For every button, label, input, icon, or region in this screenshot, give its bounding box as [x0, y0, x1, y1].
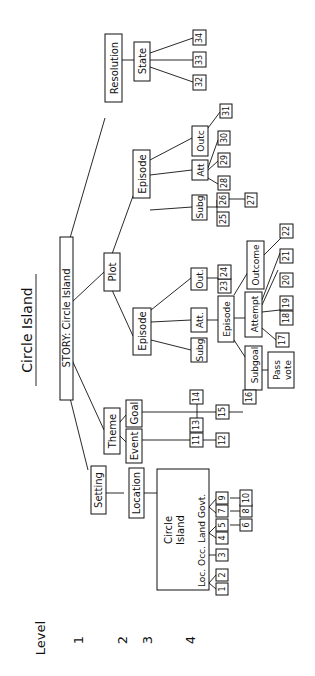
- node-circle-island: Circle Island Loc. Occ. Land Govt.: [157, 469, 209, 590]
- leaf-33: 33: [193, 52, 206, 67]
- svg-text:7: 7: [218, 508, 227, 513]
- leaf-28: 28: [218, 176, 230, 190]
- node-episode-a: Episode: [133, 308, 151, 355]
- leaf-30: 30: [218, 131, 230, 145]
- leaf-19: 19: [280, 296, 293, 310]
- leaf-17: 17: [276, 333, 289, 347]
- svg-text:2: 2: [218, 572, 227, 577]
- node-subg-b-label: Subg: [195, 196, 205, 219]
- node-resolution: Resolution: [105, 34, 122, 102]
- node-location-label: Location: [131, 472, 142, 514]
- node-subgoal-label: Subgoal: [250, 347, 260, 383]
- node-outcome: Outcome: [247, 241, 264, 289]
- node-attempt-label: Attempt: [250, 295, 260, 332]
- node-setting: Setting: [91, 466, 106, 514]
- leaf-3: 3: [216, 549, 228, 561]
- node-attempt: Attempt: [245, 292, 262, 337]
- node-plot: Plot: [104, 253, 120, 291]
- node-att-a-label: Att.: [195, 312, 205, 328]
- node-event: Event: [126, 429, 142, 463]
- svg-text:4: 4: [218, 535, 227, 540]
- svg-text:25: 25: [219, 214, 228, 224]
- node-subgoal: Subgoal: [245, 346, 262, 390]
- node-theme-label: Theme: [107, 414, 118, 450]
- svg-text:32: 32: [195, 77, 204, 87]
- leaf-12: 12: [216, 433, 229, 447]
- level-label: Level: [33, 621, 48, 655]
- leaf-22: 22: [280, 224, 293, 238]
- node-location: Location: [129, 468, 144, 518]
- leaf-16: 16: [243, 390, 256, 404]
- level-3: 3: [140, 636, 155, 644]
- node-episode-a-label: Episode: [137, 311, 148, 350]
- node-subg-a-label: Subg: [195, 339, 205, 362]
- node-out-a: Out.: [191, 268, 207, 290]
- svg-text:6: 6: [242, 522, 251, 527]
- node-goal: Goal: [126, 400, 142, 427]
- svg-text:27: 27: [247, 195, 256, 205]
- svg-text:33: 33: [195, 55, 204, 65]
- svg-text:11: 11: [192, 435, 201, 445]
- node-setting-label: Setting: [93, 472, 104, 508]
- svg-text:16: 16: [245, 392, 254, 402]
- node-pass-vote-line2: vote: [283, 360, 293, 380]
- svg-text:34: 34: [195, 33, 204, 43]
- svg-text:30: 30: [220, 133, 229, 143]
- svg-text:10: 10: [242, 493, 251, 503]
- leaf-26: 26: [217, 193, 229, 207]
- leaf-5: 5: [216, 519, 228, 531]
- leaf-24: 24: [218, 265, 231, 279]
- svg-text:3: 3: [218, 552, 227, 557]
- svg-text:18: 18: [282, 313, 291, 323]
- svg-text:9: 9: [218, 495, 227, 500]
- level-legend: Level 1 2 3 4: [33, 621, 198, 655]
- leaf-7: 7: [216, 505, 228, 517]
- node-plot-label: Plot: [107, 263, 118, 282]
- svg-text:19: 19: [282, 298, 291, 308]
- svg-text:24: 24: [220, 267, 229, 277]
- svg-text:12: 12: [218, 435, 227, 445]
- node-state: State: [134, 42, 150, 81]
- svg-text:8: 8: [242, 508, 251, 513]
- leaf-6: 6: [240, 519, 252, 531]
- svg-text:23: 23: [220, 281, 229, 291]
- svg-text:21: 21: [282, 251, 291, 261]
- node-subg-a: Subg: [191, 338, 207, 362]
- leaf-29: 29: [218, 153, 230, 167]
- leaf-11: 11: [190, 433, 203, 447]
- node-goal-label: Goal: [129, 402, 140, 425]
- leaf-9: 9: [216, 492, 228, 504]
- node-episode-inner: Episode: [218, 296, 234, 342]
- node-story-root-label: STORY: Circle Island: [61, 269, 72, 368]
- node-state-label: State: [137, 48, 148, 74]
- node-outcome-label: Outcome: [251, 244, 261, 286]
- node-episode-b-label: Episode: [137, 154, 148, 193]
- govt-label: Govt.: [197, 494, 207, 518]
- svg-text:15: 15: [218, 407, 227, 417]
- leaf-15: 15: [216, 405, 229, 419]
- leaf-25: 25: [217, 212, 229, 226]
- svg-text:5: 5: [218, 522, 227, 527]
- diagram-title: Circle Island: [19, 274, 36, 386]
- leaf-4: 4: [216, 532, 228, 544]
- node-episode-inner-label: Episode: [222, 301, 232, 337]
- node-circle-island-line1: Circle: [163, 516, 174, 544]
- node-story-root: STORY: Circle Island: [60, 237, 73, 400]
- leaf-20: 20: [280, 273, 293, 287]
- node-outc-b-label: Outc: [196, 130, 206, 151]
- svg-text:17: 17: [278, 335, 287, 345]
- node-pass-vote: Pass vote: [268, 352, 294, 388]
- svg-text:31: 31: [222, 106, 231, 116]
- svg-text:22: 22: [282, 226, 291, 236]
- leaf-27: 27: [245, 193, 257, 207]
- leaf-2: 2: [216, 569, 228, 581]
- leaf-18: 18: [280, 311, 293, 325]
- node-outc-b: Outc: [192, 126, 208, 156]
- leaf-21: 21: [280, 249, 293, 263]
- leaf-14: 14: [190, 390, 203, 404]
- node-att-b-label: Att: [196, 163, 206, 177]
- svg-text:29: 29: [220, 155, 229, 165]
- node-resolution-label: Resolution: [109, 42, 120, 94]
- svg-text:28: 28: [220, 178, 229, 188]
- node-episode-b: Episode: [133, 150, 150, 198]
